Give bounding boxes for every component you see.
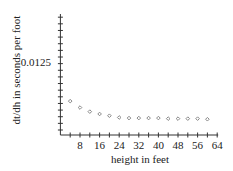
data-point — [137, 116, 141, 120]
data-point — [147, 116, 151, 120]
x-tick-label: 48 — [173, 139, 185, 151]
y-tick-label: 0.0125 — [21, 56, 52, 68]
data-point — [186, 117, 190, 121]
y-axis — [58, 14, 63, 135]
y-axis-label: dt/dh in seconds per foot — [10, 16, 22, 125]
data-point — [206, 117, 210, 121]
data-point — [166, 117, 170, 121]
x-tick-label: 8 — [77, 139, 83, 151]
x-tick-label: 56 — [192, 139, 204, 151]
data-point — [127, 116, 131, 120]
data-point — [68, 99, 72, 103]
data-point — [117, 116, 121, 120]
x-axis-label: height in feet — [111, 153, 169, 165]
scatter-chart: 816243240485664 0.0125 height in feet dt… — [0, 0, 233, 171]
data-point — [78, 106, 82, 110]
x-tick-label: 24 — [114, 139, 126, 151]
data-point — [98, 112, 102, 116]
x-axis: 816243240485664 — [60, 133, 223, 152]
data-point — [88, 110, 92, 114]
x-tick-label: 32 — [133, 139, 144, 151]
x-tick-label: 16 — [94, 139, 106, 151]
data-point — [157, 116, 161, 120]
data-point — [176, 117, 180, 121]
data-point — [196, 117, 200, 121]
data-point — [108, 114, 112, 118]
x-tick-label: 40 — [153, 139, 165, 151]
x-tick-label: 64 — [212, 139, 224, 151]
data-points — [68, 99, 209, 121]
